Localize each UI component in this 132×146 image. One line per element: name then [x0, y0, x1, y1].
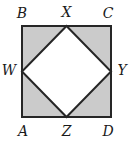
vertex-label-w: W	[1, 63, 17, 77]
vertex-label-x: X	[59, 5, 74, 19]
vertex-label-a: A	[16, 124, 30, 138]
geometry-figure: B X C W Y A Z D	[0, 0, 132, 146]
vertex-label-b: B	[15, 6, 29, 20]
vertex-label-c: C	[101, 6, 115, 20]
vertex-label-z: Z	[60, 124, 73, 138]
vertex-label-d: D	[101, 124, 115, 138]
vertex-label-y: Y	[115, 63, 129, 77]
